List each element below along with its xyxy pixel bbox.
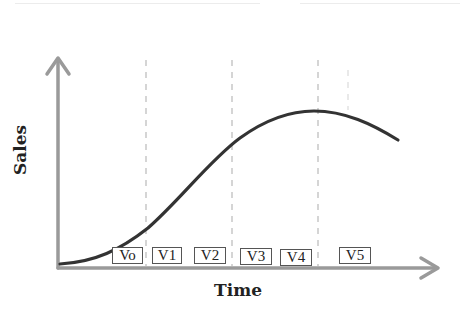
sales-time-diagram (0, 0, 465, 315)
phase-dividers (146, 60, 348, 266)
version-box-v0: Vo (112, 247, 143, 264)
sales-curve (60, 111, 398, 264)
y-axis-label: Sales (10, 125, 30, 175)
version-box-v2: V2 (194, 247, 226, 264)
x-axis-label: Time (214, 280, 262, 300)
axes (47, 58, 438, 278)
version-box-v4: V4 (280, 249, 312, 266)
version-box-v3: V3 (240, 248, 272, 265)
version-box-v5: V5 (339, 247, 371, 264)
version-box-v1: V1 (152, 247, 182, 264)
